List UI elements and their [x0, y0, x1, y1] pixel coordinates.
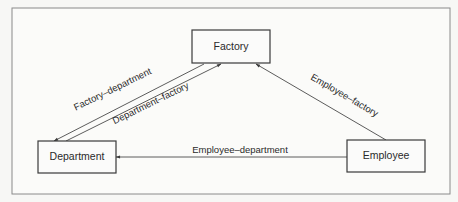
node-label-employee: Employee	[363, 149, 410, 161]
node-label-factory: Factory	[213, 40, 249, 52]
diagram-canvas: Factory–department Department–factory Em…	[0, 0, 458, 202]
node-factory: Factory	[192, 30, 270, 63]
node-label-department: Department	[50, 150, 105, 162]
node-employee: Employee	[347, 140, 425, 172]
edge-label-employee-department: Employee–department	[192, 144, 288, 155]
node-department: Department	[38, 141, 116, 173]
